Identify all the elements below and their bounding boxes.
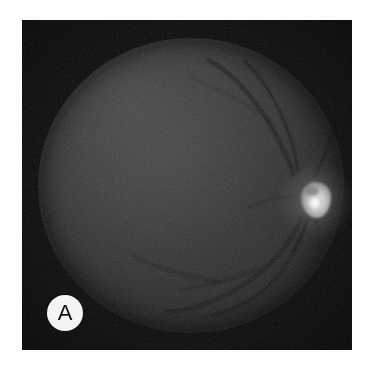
fundus-highlight-rim (38, 38, 344, 333)
optic-disc-bright-core (308, 196, 323, 210)
panel-label-text: A (58, 302, 73, 324)
panel-label-badge: A (47, 295, 83, 331)
retinal-fundus-disc (38, 38, 344, 333)
optic-disc-notch (306, 187, 319, 196)
fundus-limbus-ring (41, 41, 341, 330)
figure-root: A (0, 0, 373, 367)
